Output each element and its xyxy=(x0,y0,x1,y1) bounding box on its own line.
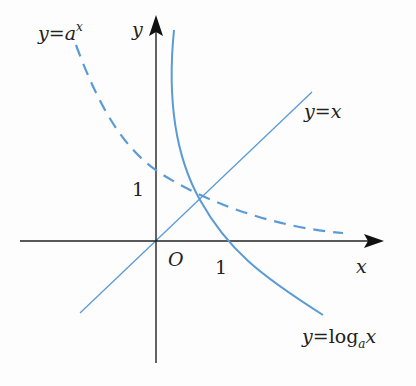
y-axis-label: y xyxy=(132,18,143,40)
id-label-y: y xyxy=(304,100,315,122)
function-graph: y=ax y y=x 1 O 1 x y=logax xyxy=(0,0,416,386)
x-tick-1: 1 xyxy=(215,256,227,278)
exp-label-y: y xyxy=(38,22,49,44)
log-label-y: y xyxy=(302,325,313,347)
id-label-eq: = xyxy=(315,100,331,122)
origin-label: O xyxy=(168,248,184,270)
x-axis-label: x xyxy=(356,255,367,277)
log-curve-label: y=logax xyxy=(302,325,376,351)
log-label-arg: x xyxy=(366,325,377,347)
id-label-x: x xyxy=(331,100,342,122)
exp-label-eq: = xyxy=(49,22,65,44)
identity-line-label: y=x xyxy=(304,100,341,122)
log-label-fn: log xyxy=(329,325,359,347)
exponential-curve xyxy=(76,45,343,233)
log-label-eq: = xyxy=(313,325,329,347)
exp-label-exponent: x xyxy=(76,20,83,34)
log-label-base: a xyxy=(358,337,365,351)
exp-label-base: a xyxy=(65,22,76,44)
y-tick-1: 1 xyxy=(132,178,144,200)
exp-curve-label: y=ax xyxy=(38,20,83,44)
log-curve xyxy=(172,30,323,315)
